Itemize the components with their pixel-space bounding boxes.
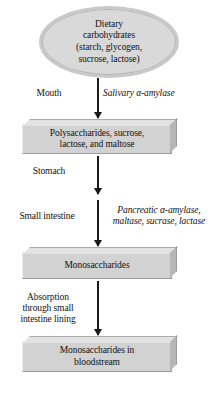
arrow-small-intestine-to-monosaccharides [97,200,99,246]
carbohydrate-digestion-flowchart: Dietary carbohydrates (starch, glycogen,… [0,0,218,395]
enzyme-label-pancreatic-enzymes: Pancreatic α-amylase, maltase, sucrase, … [103,205,215,227]
arrowhead-icon [94,240,102,247]
node-monosaccharides-bloodstream-label: Monosaccharides in bloodstream [55,345,139,368]
node-monosaccharides-label: Monosaccharides [60,260,135,271]
stage-label-mouth: Mouth [6,88,92,99]
node-polysaccharides: Polysaccharides, sucrose, lactose, and m… [22,124,172,154]
enzyme-label-salivary-alpha-amylase: Salivary α-amylase [103,88,211,99]
node-polysaccharides-label: Polysaccharides, sucrose, lactose, and m… [45,128,149,151]
stage-label-absorption: Absorption through small intestine linin… [4,292,92,326]
arrow-absorption-to-bloodstream [97,281,99,335]
arrow-mouth-to-polysaccharides [97,78,99,118]
stage-label-small-intestine: Small intestine [2,211,92,222]
node-dietary-carbohydrates-label: Dietary carbohydrates (starch, glycogen,… [70,19,148,65]
arrowhead-icon [94,112,102,119]
arrow-stomach [97,156,99,194]
arrowhead-icon [94,329,102,336]
arrowhead-icon [94,188,102,195]
node-monosaccharides: Monosaccharides [22,252,172,279]
node-monosaccharides-bloodstream: Monosaccharides in bloodstream [22,341,172,372]
stage-label-stomach: Stomach [6,166,92,177]
node-dietary-carbohydrates: Dietary carbohydrates (starch, glycogen,… [39,6,179,78]
